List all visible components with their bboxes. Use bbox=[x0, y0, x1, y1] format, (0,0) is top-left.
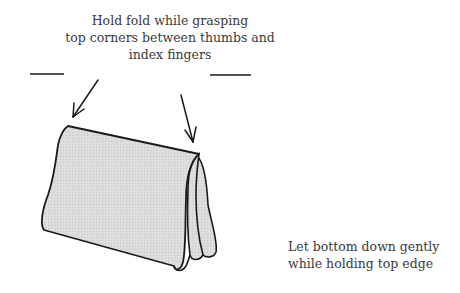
left-arrow-icon bbox=[73, 80, 98, 117]
bottom-caption-line-1: Let bottom down gently bbox=[288, 238, 458, 255]
right-arrow-icon bbox=[181, 95, 196, 142]
bottom-instruction-caption: Let bottom down gently while holding top… bbox=[288, 238, 458, 272]
cloth-front-panel bbox=[42, 126, 199, 269]
bottom-caption-line-2: while holding top edge bbox=[288, 255, 458, 272]
